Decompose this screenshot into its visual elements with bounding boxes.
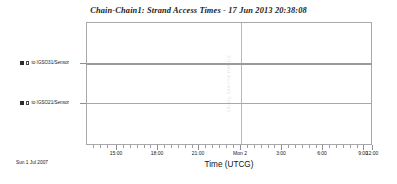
x-axis-tick-label: 15:00 [110,150,123,156]
x-axis-minor-tick [268,145,269,148]
plot-area[interactable]: Strand Access Times [86,22,372,145]
x-axis-tick-label: 18:00 [151,150,164,156]
epoch-start-label: Sun 1 Jul 2007 [16,160,48,165]
x-axis-minor-tick [350,145,351,148]
y-axis-row-label-text: to IGSO31/Sensor [32,60,70,66]
strand-access-times-chart: Chain-Chain1: Strand Access Times - 17 J… [0,0,397,184]
x-axis-minor-tick [254,145,255,148]
chart-title: Chain-Chain1: Strand Access Times - 17 J… [0,6,397,15]
x-axis-minor-tick [343,145,344,148]
y-axis-tick [80,103,86,104]
x-axis-minor-tick [309,145,310,148]
x-axis-minor-tick [192,145,193,148]
x-axis-title: Time (UTCG) [86,160,372,169]
x-axis-minor-tick [295,145,296,148]
x-axis-minor-tick [123,145,124,148]
y-axis-row-label-text: to IGSO21/Sensor [32,100,70,106]
x-axis-tick-label: Mon 2 [233,150,247,156]
x-axis-minor-tick [144,145,145,148]
x-axis-minor-tick [274,145,275,148]
x-axis-minor-tick [130,145,131,148]
x-axis-minor-tick [171,145,172,148]
x-axis-minor-tick [233,145,234,148]
x-axis-minor-tick [329,145,330,148]
strand-access-line[interactable] [86,63,372,65]
x-axis-minor-tick [137,145,138,148]
x-axis-minor-tick [150,145,151,148]
filled-square-icon [20,61,24,66]
open-square-icon [26,101,30,106]
x-axis-minor-tick [261,145,262,148]
strand-access-line[interactable] [86,103,372,104]
filled-square-icon [20,101,24,106]
x-axis-minor-tick [247,145,248,148]
x-axis-minor-tick [178,145,179,148]
x-axis-minor-tick [357,145,358,148]
x-axis-tick-label: 3:00 [276,150,286,156]
y-axis-tick [80,63,86,64]
y-axis-row-label: to IGSO21/Sensor [20,100,69,106]
x-axis-tick-label: 6:00 [317,150,327,156]
x-axis-minor-tick [100,145,101,148]
x-axis-minor-tick [164,145,165,148]
x-axis-minor-tick [336,145,337,148]
x-axis-minor-tick [226,145,227,148]
x-axis-minor-tick [316,145,317,148]
x-axis-minor-tick [93,145,94,148]
x-axis-minor-tick [288,145,289,148]
x-axis-tick-label: 12:00 [366,150,379,156]
x-axis-minor-tick [212,145,213,148]
x-axis-minor-tick [185,145,186,148]
y-axis-row-label: to IGSO31/Sensor [20,60,69,66]
x-axis-minor-tick [107,145,108,148]
x-axis-tick-label: 21:00 [192,150,205,156]
x-axis-minor-tick [219,145,220,148]
x-axis-minor-tick [302,145,303,148]
x-axis-minor-tick [205,145,206,148]
open-square-icon [26,61,30,66]
vertical-gridline [241,23,242,144]
